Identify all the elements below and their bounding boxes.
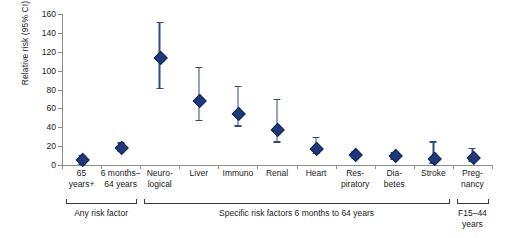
error-bar-cap-upper xyxy=(430,141,437,142)
data-point xyxy=(433,14,434,165)
diamond-marker xyxy=(153,51,168,66)
error-bar-cap-lower xyxy=(234,125,241,126)
data-point xyxy=(81,14,82,165)
diamond-marker xyxy=(232,107,247,122)
group-label: Specific risk factors 6 months to 64 yea… xyxy=(129,208,464,219)
data-point xyxy=(472,14,473,165)
group-brackets: Any risk factorSpecific risk factors 6 m… xyxy=(62,203,492,238)
y-tick-label: 80 xyxy=(47,85,56,95)
y-tick-label: 20 xyxy=(47,141,56,151)
x-axis-label: Preg- nancy xyxy=(446,168,499,190)
error-bar-cap-upper xyxy=(469,148,476,149)
group-cap-right xyxy=(136,199,137,204)
data-point xyxy=(159,14,160,165)
error-bar-cap-upper xyxy=(313,137,320,138)
diamond-marker xyxy=(466,151,481,166)
diamond-marker xyxy=(192,94,207,109)
y-tick-label: 40 xyxy=(47,122,56,132)
group-cap-right xyxy=(488,199,489,204)
group-cap-left xyxy=(144,199,145,204)
group-rule xyxy=(457,203,488,204)
error-bar-cap-lower xyxy=(274,141,281,142)
error-bar-cap-upper xyxy=(274,99,281,100)
y-tick-label: 100 xyxy=(42,66,56,76)
diamond-marker xyxy=(271,123,286,138)
data-point xyxy=(394,14,395,165)
data-series xyxy=(62,14,492,165)
y-axis-title: Relative risk (95% CI) xyxy=(20,0,30,108)
group-rule xyxy=(66,203,136,204)
y-tick-label: 60 xyxy=(47,103,56,113)
data-point xyxy=(237,14,238,165)
data-point xyxy=(120,14,121,165)
risk-factor-forest-chart: Relative risk (95% CI) 02040608010012014… xyxy=(0,0,505,238)
data-point xyxy=(355,14,356,165)
y-tick-label: 120 xyxy=(42,47,56,57)
group-cap-left xyxy=(66,199,67,204)
x-axis-line xyxy=(62,165,492,166)
error-bar-cap-upper xyxy=(195,67,202,68)
data-point xyxy=(316,14,317,165)
plot-area: 020406080100120140160 xyxy=(62,14,492,165)
group-cap-left xyxy=(457,199,458,204)
y-tick-label: 140 xyxy=(42,28,56,38)
data-point xyxy=(277,14,278,165)
group-label: F15–44 years xyxy=(442,208,503,230)
data-point xyxy=(198,14,199,165)
diamond-marker xyxy=(310,142,325,157)
y-tick-label: 160 xyxy=(42,9,56,19)
group-rule xyxy=(144,203,449,204)
error-bar-cap-upper xyxy=(156,22,163,23)
error-bar-cap-upper xyxy=(234,86,241,87)
error-bar-cap-lower xyxy=(156,88,163,89)
group-cap-right xyxy=(449,199,450,204)
x-axis-category-labels: 65 years+6 months– 64 yearsNeuro- logica… xyxy=(62,168,492,202)
error-bar-cap-lower xyxy=(195,120,202,121)
diamond-marker xyxy=(427,152,442,167)
